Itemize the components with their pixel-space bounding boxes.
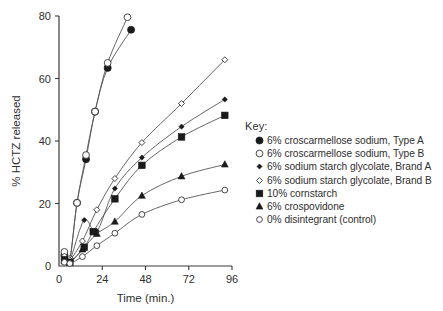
data-curves	[64, 17, 224, 264]
data-point-filled-circle	[255, 137, 262, 144]
data-point-filled-triangle	[138, 192, 145, 198]
filled-diamond-icon	[253, 161, 265, 173]
data-point-filled-square	[139, 162, 146, 169]
y-tick-label: 80	[39, 10, 51, 22]
legend-item[interactable]: 6% crospovidone	[253, 200, 441, 213]
open-diamond-icon	[253, 174, 265, 186]
data-point-filled-diamond	[256, 164, 261, 169]
data-point-open-circle-small	[94, 243, 100, 249]
data-point-filled-diamond	[82, 217, 87, 222]
legend-item[interactable]: 6% croscarmellose sodium, Type B	[253, 147, 441, 160]
legend-item-label: 6% croscarmellose sodium, Type A	[267, 135, 424, 146]
data-point-filled-circle	[127, 26, 134, 33]
legend-marker-filled-diamond	[254, 161, 265, 172]
y-tick-label: 40	[39, 135, 51, 147]
data-point-open-circle-small	[256, 217, 262, 223]
chart-legend: Key: 6% croscarmellose sodium, Type A6% …	[243, 120, 441, 226]
legend-item[interactable]: 0% disintegrant (control)	[253, 213, 441, 226]
data-point-open-circle-small	[139, 212, 145, 218]
legend-title: Key:	[245, 120, 441, 132]
series-line-6	[64, 190, 224, 264]
data-point-filled-square	[256, 190, 263, 197]
filled-triangle-icon	[253, 201, 265, 213]
legend-item-label: 10% cornstarch	[267, 188, 337, 199]
data-point-open-circle-small	[112, 230, 118, 236]
legend-marker-filled-square	[254, 188, 265, 199]
x-axis-title: Time (min.)	[117, 292, 175, 304]
data-point-open-circle	[74, 199, 81, 206]
data-point-filled-diamond	[112, 186, 117, 191]
legend-item-label: 0% disintegrant (control)	[267, 214, 376, 225]
data-point-open-circle-small	[80, 254, 86, 260]
open-circle-icon	[253, 148, 265, 160]
legend-item[interactable]: 10% cornstarch	[253, 187, 441, 200]
x-tick-label: 0	[56, 273, 62, 285]
chart-figure: 020406080024487296Time (min.)% HCTZ rele…	[0, 0, 443, 311]
data-point-filled-square	[112, 196, 119, 203]
legend-marker-open-circle	[254, 148, 265, 159]
legend-item[interactable]: 6% sodium starch glycolate, Brand A	[253, 160, 441, 173]
data-point-open-circle	[124, 14, 131, 21]
legend-marker-open-circle-small	[254, 214, 265, 225]
filled-square-icon	[253, 187, 265, 199]
data-point-open-circle	[256, 150, 263, 157]
series-line-1	[64, 17, 127, 261]
x-tick-label: 96	[226, 273, 238, 285]
data-point-filled-triangle	[221, 161, 228, 167]
data-point-open-circle	[83, 152, 90, 159]
x-tick-label: 48	[139, 273, 151, 285]
legend-marker-open-diamond	[254, 175, 265, 186]
filled-circle-icon	[253, 135, 265, 147]
y-axis-title: % HCTZ released	[10, 95, 22, 186]
x-tick-label: 24	[96, 273, 108, 285]
y-tick-label: 60	[39, 73, 51, 85]
axis-labels: 020406080024487296Time (min.)% HCTZ rele…	[10, 10, 238, 304]
data-point-filled-triangle	[256, 203, 263, 209]
data-point-open-circle-small	[67, 261, 73, 267]
legend-item-label: 6% crospovidone	[267, 201, 344, 212]
y-tick-label: 20	[39, 198, 51, 210]
data-point-open-diamond	[256, 177, 262, 183]
legend-marker-filled-triangle	[254, 201, 265, 212]
legend-items: 6% croscarmellose sodium, Type A6% crosc…	[243, 134, 441, 226]
data-point-filled-diamond	[222, 97, 227, 102]
data-point-open-circle-small	[179, 197, 185, 203]
open-circle-small-icon	[253, 214, 265, 226]
data-point-open-diamond	[112, 176, 118, 182]
data-point-open-circle	[92, 108, 99, 115]
data-point-open-diamond	[79, 238, 85, 244]
series-line-0	[64, 30, 131, 263]
data-point-filled-square	[221, 112, 228, 119]
data-point-open-diamond	[94, 207, 100, 213]
legend-item[interactable]: 6% sodium starch glycolate, Brand B	[253, 174, 441, 187]
data-point-open-circle-small	[222, 187, 228, 193]
data-point-filled-square	[178, 134, 185, 141]
x-tick-label: 72	[183, 273, 195, 285]
legend-item-label: 6% croscarmellose sodium, Type B	[267, 148, 424, 159]
series-line-2	[64, 99, 224, 262]
legend-marker-filled-circle	[254, 135, 265, 146]
legend-item[interactable]: 6% croscarmellose sodium, Type A	[253, 134, 441, 147]
series-line-4	[64, 115, 224, 262]
data-point-open-circle-small	[62, 259, 68, 265]
legend-item-label: 6% sodium starch glycolate, Brand A	[267, 161, 431, 172]
y-tick-label: 0	[45, 260, 51, 272]
legend-item-label: 6% sodium starch glycolate, Brand B	[267, 175, 432, 186]
data-point-open-circle	[104, 59, 111, 66]
